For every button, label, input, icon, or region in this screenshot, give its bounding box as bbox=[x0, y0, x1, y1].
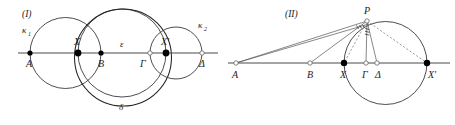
point-label-X2: X bbox=[339, 69, 347, 80]
label-kappa1-glyph: κ bbox=[22, 25, 27, 35]
point-label-A2: A bbox=[231, 69, 239, 80]
circle-delta bbox=[75, 9, 172, 106]
point-label-X-prime: X′ bbox=[160, 36, 170, 47]
point-label-Delta2: Δ bbox=[374, 69, 381, 80]
label-kappa1-subscript: 1 bbox=[28, 31, 31, 37]
label-epsilon: ε bbox=[120, 39, 124, 49]
point-marker-X2 bbox=[341, 60, 347, 66]
point-label-Gamma2: Γ bbox=[361, 69, 368, 80]
segment-P-to-Gamma bbox=[366, 21, 367, 63]
point-marker-X-prime bbox=[163, 50, 170, 57]
point-label-Gamma: Γ bbox=[139, 58, 146, 69]
panel-two-caption: (II) bbox=[285, 9, 298, 20]
point-label-B: B bbox=[98, 58, 104, 69]
point-label-A: A bbox=[25, 58, 33, 69]
label-kappa2-glyph: κ bbox=[198, 20, 203, 30]
point-label-Delta: Δ bbox=[198, 58, 205, 69]
point-label-X-prime2: X′ bbox=[427, 69, 437, 80]
label-kappa1: κ 1 bbox=[22, 25, 31, 37]
point-marker-A2 bbox=[234, 61, 238, 65]
label-delta: δ bbox=[119, 102, 124, 112]
point-label-X: X bbox=[73, 36, 81, 47]
angle-marks-at-P bbox=[357, 25, 370, 35]
point-marker-P bbox=[365, 19, 369, 23]
geometry-figure-container: (I) κ 1 ε δ κ 2 A X bbox=[0, 0, 455, 125]
panel-one-caption: (I) bbox=[22, 9, 32, 20]
panel-one: (I) κ 1 ε δ κ 2 A X bbox=[18, 9, 218, 112]
point-marker-Delta2 bbox=[375, 61, 379, 65]
point-marker-Gamma bbox=[148, 51, 152, 55]
segment-P-to-Delta bbox=[367, 21, 377, 63]
point-label-P: P bbox=[363, 5, 370, 16]
point-marker-X bbox=[75, 50, 82, 57]
point-marker-B2 bbox=[308, 61, 312, 65]
point-marker-B bbox=[98, 50, 103, 55]
label-kappa2-subscript: 2 bbox=[204, 26, 207, 32]
point-label-B2: B bbox=[307, 69, 313, 80]
point-marker-A bbox=[27, 50, 32, 55]
dashed-chord-P-to-X-prime bbox=[367, 21, 427, 63]
point-marker-Gamma2 bbox=[364, 61, 368, 65]
label-kappa2: κ 2 bbox=[198, 20, 207, 32]
point-marker-Delta bbox=[200, 51, 204, 55]
point-marker-X-prime2 bbox=[424, 60, 430, 66]
geometry-figure-svg: (I) κ 1 ε δ κ 2 A X bbox=[0, 0, 455, 125]
panel-two: (II) bbox=[228, 5, 450, 105]
